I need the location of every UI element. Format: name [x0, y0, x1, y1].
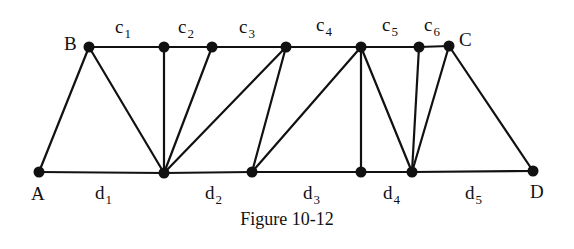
vertex-M4: [407, 167, 418, 178]
graph-edges: [39, 46, 533, 173]
edge-B-M1: [89, 47, 164, 173]
vertex-M3: [356, 167, 367, 178]
vertex-label-A: A: [31, 183, 45, 204]
segment-label-d4: d4: [383, 182, 401, 207]
segment-label-d5: d5: [465, 182, 482, 207]
segment-label-d3: d3: [303, 182, 320, 207]
segment-label-c4: c4: [316, 14, 332, 39]
vertex-M1: [159, 168, 170, 179]
edge-C-D: [449, 46, 533, 171]
edge-M1-M2: [164, 172, 252, 173]
vertex-T4: [281, 42, 292, 53]
vertex-label-D: D: [530, 181, 544, 202]
graph-nodes: [34, 41, 539, 179]
vertex-T3: [207, 42, 218, 53]
vertex-labels: BCAD: [31, 29, 544, 204]
vertex-C: [444, 41, 455, 52]
vertex-T2: [159, 42, 170, 53]
edge-A-B: [39, 47, 89, 172]
vertex-T5: [356, 42, 367, 53]
edge-T3-M1: [164, 47, 212, 173]
vertex-label-C: C: [459, 29, 472, 50]
segment-label-c5: c5: [382, 14, 398, 39]
edge-A-M1: [39, 172, 164, 173]
segment-label-c3: c3: [239, 16, 255, 41]
figure-caption: Figure 10-12: [240, 209, 334, 229]
edge-M4-D: [412, 171, 533, 172]
segment-label-c1: c1: [115, 16, 131, 41]
graph-diagram: BCAD c1c2c3c4c5c6d1d2d3d4d5 Figure 10-12: [0, 0, 574, 249]
segment-label-d1: d1: [95, 182, 112, 207]
segment-label-c6: c6: [424, 14, 440, 39]
vertex-A: [34, 167, 45, 178]
edge-T5-M4: [361, 47, 412, 172]
vertex-label-B: B: [64, 33, 77, 54]
segment-label-c2: c2: [178, 16, 194, 41]
vertex-D: [528, 166, 539, 177]
segment-label-d2: d2: [205, 182, 222, 207]
vertex-B: [84, 42, 95, 53]
vertex-M2: [247, 167, 258, 178]
vertex-T6: [414, 42, 425, 53]
